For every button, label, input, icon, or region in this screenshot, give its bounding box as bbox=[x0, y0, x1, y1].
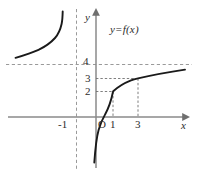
x-tick-label-1: 1 bbox=[110, 119, 116, 130]
x-axis-label: x bbox=[181, 120, 186, 131]
x-tick-label-3: 3 bbox=[135, 119, 141, 130]
y-axis-label: y bbox=[85, 12, 90, 23]
curve-right-branch bbox=[94, 70, 185, 163]
y-tick-label-2: 2 bbox=[85, 86, 91, 97]
function-graph-figure: 4 3 2 -1 O 1 3 y x y=f(x) bbox=[0, 0, 198, 176]
y-tick-label-4: 4 bbox=[83, 56, 89, 67]
y-tick-label-3: 3 bbox=[85, 73, 91, 84]
curve-left-branch bbox=[16, 12, 63, 58]
function-label: y=f(x) bbox=[110, 24, 139, 35]
x-tick-label-minus1: -1 bbox=[58, 119, 67, 130]
origin-label: O bbox=[98, 119, 106, 130]
graph-canvas bbox=[0, 0, 198, 176]
